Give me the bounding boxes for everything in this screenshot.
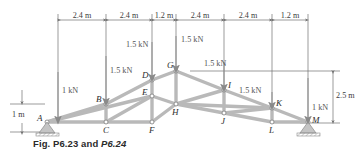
joint-F — [150, 120, 154, 124]
member-J-K — [224, 108, 272, 113]
joint-K — [270, 106, 274, 110]
load-label-M: 1 kN — [312, 103, 328, 112]
joint-H — [174, 102, 178, 106]
member-K-M — [272, 108, 308, 122]
member-D-G — [152, 71, 176, 80]
support-M-ground — [297, 133, 320, 136]
node-label-C: C — [103, 125, 110, 135]
load-label-B: 1.5 kN — [110, 66, 132, 75]
load-label-A: 1 kN — [62, 86, 78, 95]
node-label-K: K — [275, 98, 283, 108]
member-E-H — [152, 96, 176, 104]
caption-prefix: Fig. P6.23 and — [33, 138, 101, 149]
node-label-M: M — [311, 115, 320, 125]
load-label-K: 1.5 kN — [239, 86, 261, 95]
node-label-B: B — [96, 94, 102, 104]
dimension-chain-horizontal — [58, 14, 308, 92]
figure-caption: Fig. P6.23 and P6.24 — [33, 138, 126, 149]
node-label-H: H — [171, 107, 179, 117]
member-H-I — [176, 90, 224, 104]
dim-label-3: 1.2 m — [155, 11, 174, 20]
joint-D — [150, 78, 154, 82]
load-label-G: 1.5 kN — [181, 35, 203, 44]
load-label-D: 1.5 kN — [126, 40, 148, 49]
support-A — [36, 122, 59, 136]
joint-J — [222, 111, 226, 115]
member-J-L — [224, 113, 272, 122]
dim-label-6: 1.2 m — [281, 11, 300, 20]
joint-C — [104, 120, 108, 124]
dim-label-2p5m: 2.5 m — [336, 91, 355, 100]
load-label-I: 1.5 kN — [204, 59, 226, 68]
truss-figure: 2.4 m 2.4 m 1.2 m 2.4 m 2.4 m 1.2 m 2.5 … — [0, 0, 360, 159]
member-G-I — [176, 71, 224, 90]
node-label-L: L — [268, 125, 274, 135]
joint-E — [150, 94, 154, 98]
joint-B — [104, 102, 108, 106]
dim-label-1m: 1 m — [12, 110, 25, 119]
dim-label-1: 2.4 m — [73, 11, 92, 20]
node-label-A: A — [36, 113, 43, 123]
node-label-E: E — [141, 87, 148, 97]
dim-label-4: 2.4 m — [191, 11, 210, 20]
caption-italic: P6.24 — [101, 138, 126, 149]
joint-I — [222, 88, 226, 92]
node-label-I: I — [227, 80, 232, 90]
node-label-G: G — [167, 60, 174, 70]
joint-G — [174, 69, 178, 73]
dim-label-2: 2.4 m — [120, 11, 139, 20]
node-label-F: F — [148, 125, 155, 135]
support-A-ground — [36, 133, 59, 136]
node-label-J: J — [221, 116, 226, 126]
node-label-D: D — [141, 70, 149, 80]
dim-label-5: 2.4 m — [239, 11, 258, 20]
joint-L — [270, 120, 274, 124]
